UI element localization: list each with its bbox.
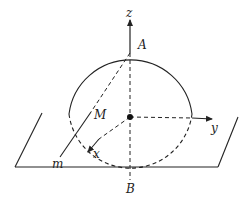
point-B-label: B xyxy=(125,182,135,196)
diagram-svg: z A y x M m B xyxy=(0,0,251,201)
diagram-canvas: z A y x M m B xyxy=(0,0,251,201)
segment-AM xyxy=(91,53,130,112)
z-axis-label: z xyxy=(125,6,133,20)
plane-left-edge xyxy=(15,113,42,167)
y-axis-label: y xyxy=(210,121,218,135)
point-A-label: A xyxy=(137,38,147,52)
point-M-label: M xyxy=(93,108,107,122)
line-m xyxy=(60,112,91,157)
y-axis-arrow xyxy=(192,118,212,119)
plane xyxy=(15,113,238,167)
center-point xyxy=(127,114,133,120)
plane-right-edge xyxy=(218,117,238,167)
line-m-label: m xyxy=(52,157,63,171)
y-axis-dashed xyxy=(130,117,192,118)
x-axis-label: x xyxy=(93,147,100,161)
